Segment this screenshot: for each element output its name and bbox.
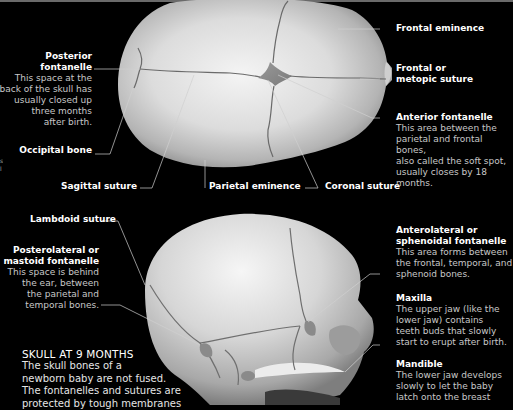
- figure-caption: SKULL AT 9 MONTHS The skull bones of a n…: [22, 349, 181, 410]
- label-maxilla: Maxilla The upper jaw (like the lower ja…: [396, 293, 507, 348]
- label-coronal-suture: Coronal suture: [325, 181, 400, 192]
- nasal-tip: [385, 62, 392, 86]
- ear-opening: [241, 371, 255, 381]
- label-occipital-bone: Occipital bone: [0, 145, 92, 156]
- label-posterolateral-fontanelle: Posterolateral or mastoid fontanelle Thi…: [0, 245, 99, 311]
- label-anterior-fontanelle: Anterior fontanelle This area between th…: [396, 112, 513, 189]
- label-sagittal-suture: Sagittal suture: [27, 181, 137, 192]
- label-posterior-fontanelle: Posterior fontanelle This space at the b…: [0, 51, 92, 128]
- top-skull-shape: [118, 0, 392, 167]
- cropped-text-fragment: s l: [0, 157, 3, 173]
- skull-top-view: [118, 0, 392, 167]
- label-anterolateral-fontanelle: Anterolateral or sphenoidal fontanelle T…: [396, 225, 512, 280]
- label-lambdoid-suture: Lambdoid suture: [30, 214, 116, 225]
- label-frontal-suture: Frontal or metopic suture: [396, 63, 473, 85]
- caption-title: SKULL AT 9 MONTHS: [22, 349, 181, 360]
- leader-lambdoid-suture: [102, 221, 145, 285]
- label-mandible: Mandible The lower jaw develops slowly t…: [396, 359, 502, 403]
- label-frontal-eminence: Frontal eminence: [396, 23, 484, 34]
- label-parietal-eminence: Parietal eminence: [209, 181, 301, 192]
